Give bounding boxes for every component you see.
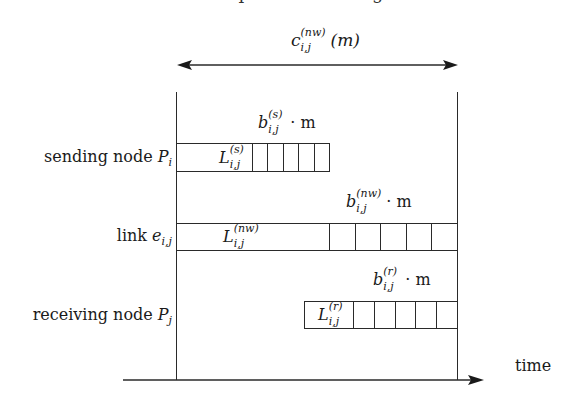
receiving-bandwidth-label: b(r)i,j· m xyxy=(373,270,431,291)
latency-symbol: L xyxy=(223,227,234,246)
sending-packet-cell xyxy=(315,144,329,171)
row-label-symbol: P xyxy=(158,305,169,324)
bandwidth-sup: (s) xyxy=(268,108,282,121)
row-label-sub: i xyxy=(168,156,172,169)
row-label-symbol: e xyxy=(152,226,161,245)
total-cost-symbol: c xyxy=(291,30,301,50)
row-label-sub: i,j xyxy=(162,235,172,248)
sending-packet-cell xyxy=(253,144,268,171)
total-cost-label: c(nw)i,j(m) xyxy=(291,30,360,52)
diagram-lines xyxy=(0,0,576,400)
total-cost-sup: (nw) xyxy=(301,26,326,39)
bandwidth-sub: i,j xyxy=(383,280,393,293)
bandwidth-sup: (nw) xyxy=(356,187,381,200)
bandwidth-sub: i,j xyxy=(356,202,366,215)
latency-symbol: L xyxy=(318,305,329,324)
latency-sub: i,j xyxy=(230,158,240,171)
latency-symbol: L xyxy=(219,148,230,167)
bandwidth-suffix: · m xyxy=(290,113,315,132)
link-packet-cell xyxy=(407,224,433,250)
link-bar: L(nw)i,j xyxy=(176,223,458,251)
latency-sup: (s) xyxy=(230,143,244,156)
bandwidth-symbol: b xyxy=(258,113,268,132)
sending-packet-cell xyxy=(284,144,299,171)
time-axis-arrow xyxy=(123,375,484,385)
latency-sub: i,j xyxy=(234,237,244,250)
bandwidth-sup: (r) xyxy=(383,265,397,278)
sending-latency-segment: L(s)i,j xyxy=(177,144,253,171)
sending-packet-cell xyxy=(299,144,314,171)
total-cost-arg: (m) xyxy=(331,30,360,50)
latency-sub: i,j xyxy=(329,315,339,328)
total-cost-sub: i,j xyxy=(301,41,311,54)
bandwidth-suffix: · m xyxy=(386,192,411,211)
link-packet-cell xyxy=(432,224,457,250)
time-axis-label: time xyxy=(515,356,551,375)
sending-bandwidth-label: b(s)i,j· m xyxy=(258,113,316,134)
receiving-latency-label: L(r)i,j xyxy=(318,305,351,326)
receiving-packet-cell xyxy=(437,302,457,328)
link-packet-cell xyxy=(356,224,382,250)
link-packet-cell xyxy=(330,224,356,250)
row-label-sub: j xyxy=(169,314,172,327)
receiving-packet-cell xyxy=(354,302,375,328)
receiving-packet-cell xyxy=(396,302,417,328)
latency-sup: (nw) xyxy=(234,222,259,235)
bandwidth-symbol: b xyxy=(346,192,356,211)
sending-node-bar: L(s)i,j xyxy=(176,143,330,172)
link-latency-label: L(nw)i,j xyxy=(223,227,264,248)
row-label-symbol: P xyxy=(158,147,169,166)
sending-packet-cell xyxy=(268,144,283,171)
total-cost-double-arrow xyxy=(177,60,458,70)
row-label-text: sending node xyxy=(44,147,158,166)
bandwidth-symbol: b xyxy=(373,270,383,289)
bandwidth-suffix: · m xyxy=(405,270,430,289)
link-latency-segment: L(nw)i,j xyxy=(177,224,330,250)
receiving-node-bar: L(r)i,j xyxy=(304,301,458,329)
row-label-text: link xyxy=(117,226,152,245)
sending-latency-label: L(s)i,j xyxy=(219,148,252,169)
row-label-link: link ei,j xyxy=(117,226,172,248)
row-label-sending-node: sending node Pi xyxy=(44,147,172,169)
link-packet-cell xyxy=(381,224,407,250)
receiving-latency-segment: L(r)i,j xyxy=(305,302,354,328)
row-label-receiving-node: receiving node Pj xyxy=(33,305,172,327)
bandwidth-sub: i,j xyxy=(268,123,278,136)
row-label-text: receiving node xyxy=(33,305,158,324)
link-bandwidth-label: b(nw)i,j· m xyxy=(346,192,412,213)
latency-sup: (r) xyxy=(329,300,343,313)
receiving-packet-cell xyxy=(416,302,437,328)
receiving-packet-cell xyxy=(375,302,396,328)
